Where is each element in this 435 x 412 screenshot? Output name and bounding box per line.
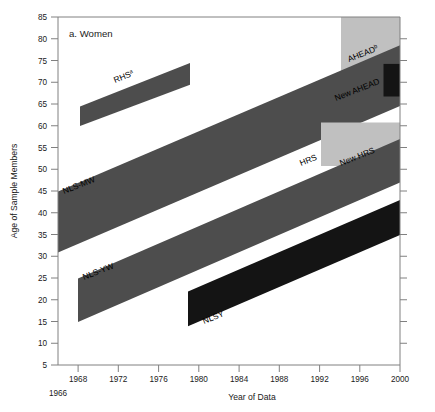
y-tick-label: 70 bbox=[38, 78, 48, 87]
x-tick-label: 1992 bbox=[310, 375, 329, 384]
x-tick-label: 1972 bbox=[109, 375, 128, 384]
band-black-corner-block bbox=[384, 64, 401, 97]
y-tick-label: 10 bbox=[38, 339, 48, 348]
y-tick-label: 50 bbox=[38, 165, 48, 174]
x-tick-label: 2000 bbox=[391, 375, 410, 384]
y-tick-label: 65 bbox=[38, 100, 48, 109]
x-tick-label: 1996 bbox=[351, 375, 370, 384]
x-tick-label: 1968 bbox=[69, 375, 88, 384]
y-tick-label: 60 bbox=[38, 122, 48, 131]
y-tick-label: 20 bbox=[38, 296, 48, 305]
y-axis-title: Age of Sample Members bbox=[9, 144, 19, 239]
page-title: a. Women bbox=[69, 28, 113, 39]
y-tick-label: 35 bbox=[38, 231, 48, 240]
x-axis-title: Year of Data bbox=[228, 392, 276, 402]
y-tick-label: 85 bbox=[38, 13, 48, 22]
band-hrs bbox=[321, 123, 331, 167]
x-tick-label-origin: 1966 bbox=[49, 389, 68, 398]
x-tick-label: 1980 bbox=[190, 375, 209, 384]
x-tick-label: 1984 bbox=[230, 375, 249, 384]
y-tick-label: 15 bbox=[38, 318, 48, 327]
x-tick-label: 1976 bbox=[149, 375, 168, 384]
chart-container: 85 80 75 70 65 60 55 50 45 40 35 30 25 2… bbox=[0, 0, 435, 412]
y-tick-label: 75 bbox=[38, 57, 48, 66]
y-tick-label: 45 bbox=[38, 187, 48, 196]
y-tick-label: 25 bbox=[38, 274, 48, 283]
x-tick-label: 1988 bbox=[270, 375, 289, 384]
y-tick-label: 40 bbox=[38, 209, 48, 218]
y-tick-label: 80 bbox=[38, 35, 48, 44]
cohort-age-year-chart: 85 80 75 70 65 60 55 50 45 40 35 30 25 2… bbox=[0, 0, 435, 412]
y-tick-label: 55 bbox=[38, 144, 48, 153]
y-tick-label: 5 bbox=[42, 361, 47, 370]
y-tick-label: 30 bbox=[38, 252, 48, 261]
